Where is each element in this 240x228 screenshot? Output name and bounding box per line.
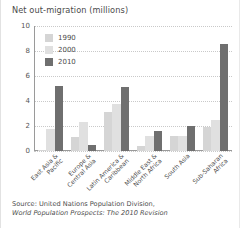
bar — [121, 87, 130, 151]
y-tick-label: 6 — [26, 72, 30, 80]
bar — [187, 126, 196, 151]
bar — [220, 44, 229, 152]
legend-label: 2010 — [58, 58, 76, 66]
x-label-cell: Latin America &Caribbean — [100, 151, 133, 197]
y-tick-label: 8 — [26, 47, 30, 55]
y-tick-label: 4 — [26, 97, 30, 105]
x-label-cell: Sub-SaharanAfrica — [199, 151, 232, 197]
x-tick-label: South Asia — [162, 152, 190, 180]
bar — [55, 86, 64, 151]
y-tick-label: 0 — [26, 147, 30, 155]
source-note: Source: United Nations Population Divisi… — [12, 200, 234, 218]
legend-item: 1990 — [45, 32, 76, 43]
legend-swatch-icon — [45, 34, 53, 42]
chart-legend: 199020002010 — [45, 32, 76, 68]
legend-item: 2010 — [45, 56, 76, 67]
bar-group — [166, 26, 199, 151]
bar-group — [100, 26, 133, 151]
legend-item: 2000 — [45, 44, 76, 55]
bar — [104, 112, 113, 151]
bar — [154, 131, 163, 151]
bar — [178, 136, 187, 151]
x-axis-labels: East Asia &PacificEurope &Central AsiaLa… — [34, 151, 232, 197]
x-label-cell: Middle East &North Africa — [133, 151, 166, 197]
bar — [71, 137, 80, 151]
bar — [211, 120, 220, 151]
x-tick-label: East Asia &Pacific — [29, 152, 64, 187]
bar — [79, 122, 88, 151]
bar-group — [199, 26, 232, 151]
source-line-1: Source: United Nations Population Divisi… — [12, 200, 234, 209]
bar — [203, 127, 212, 151]
bar — [46, 129, 55, 152]
bar — [112, 104, 121, 152]
x-label-cell: South Asia — [166, 151, 199, 197]
y-tick-label: 10 — [21, 22, 30, 30]
bar — [145, 136, 154, 151]
y-tick-label: 2 — [26, 122, 30, 130]
legend-label: 2000 — [58, 46, 76, 54]
legend-swatch-icon — [45, 58, 53, 66]
bar — [170, 136, 179, 151]
bar-group — [133, 26, 166, 151]
source-line-2: World Population Prospects: The 2010 Rev… — [12, 209, 234, 218]
legend-swatch-icon — [45, 46, 53, 54]
chart-title: Net out-migration (millions) — [12, 5, 128, 15]
legend-label: 1990 — [58, 34, 76, 42]
x-label-cell: East Asia &Pacific — [34, 151, 67, 197]
chart-figure: Net out-migration (millions) 0246810 Eas… — [0, 0, 240, 228]
